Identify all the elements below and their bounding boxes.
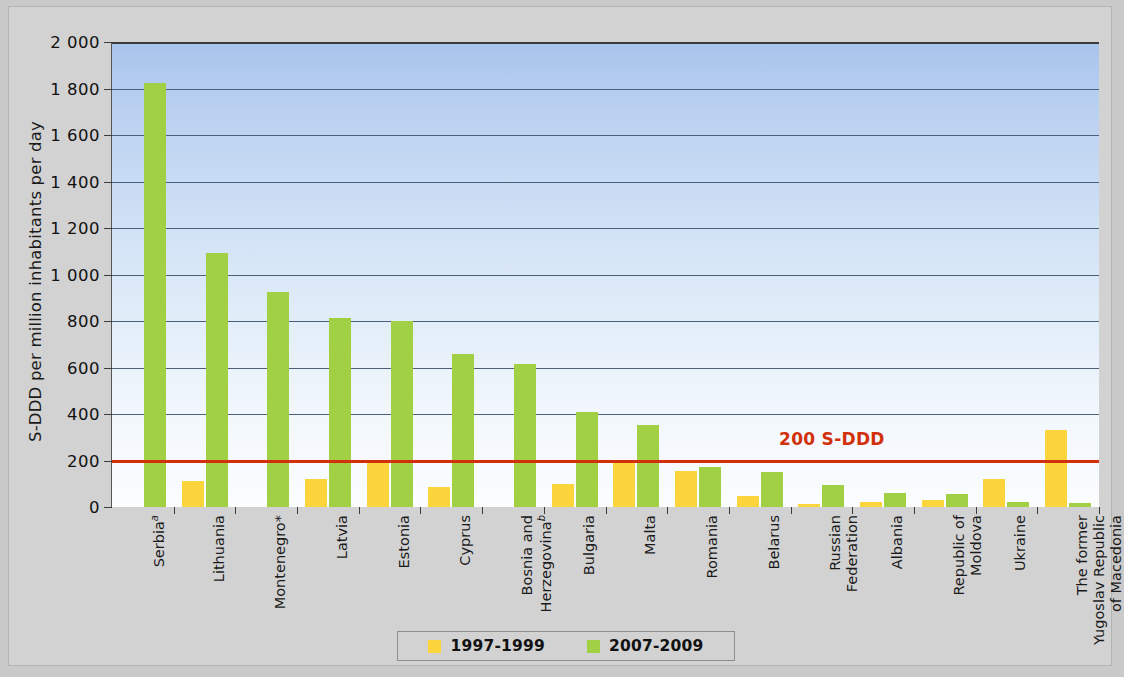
y-axis-tick xyxy=(104,135,112,136)
bar-group xyxy=(367,42,413,507)
bar-group xyxy=(305,42,351,507)
x-axis-category-label: Serbiaa xyxy=(149,515,168,567)
bar-group xyxy=(675,42,721,507)
plot-area: 2 0001 8001 6001 4001 2001 0008006004002… xyxy=(111,42,1099,507)
bar-2007-2009 xyxy=(822,485,844,507)
x-axis-tick xyxy=(667,507,668,514)
bar-2007-2009 xyxy=(699,467,721,507)
x-axis-tick xyxy=(791,507,792,514)
bar-group xyxy=(243,42,289,507)
legend-item-2007-2009: 2007-2009 xyxy=(587,637,704,655)
bar-1997-1999 xyxy=(675,471,697,507)
x-axis-tick xyxy=(976,507,977,514)
x-axis-category-label: Cyprus xyxy=(457,515,474,566)
y-axis-tick-label: 800 xyxy=(67,312,100,331)
y-axis-tick-label: 1 000 xyxy=(50,265,100,284)
x-axis-tick xyxy=(174,507,175,514)
bar-1997-1999 xyxy=(552,484,574,507)
legend-label-2007-2009: 2007-2009 xyxy=(609,637,704,655)
legend-swatch-icon-2007-2009 xyxy=(587,640,600,653)
y-axis-tick-label: 0 xyxy=(89,498,100,517)
x-axis-tick xyxy=(852,507,853,514)
y-axis-tick-label: 1 200 xyxy=(50,219,100,238)
y-axis-tick xyxy=(104,89,112,90)
x-axis-category-label: Latvia xyxy=(334,515,351,559)
x-axis-category-label: The formerYugoslav Republicof Macedonia xyxy=(1074,515,1124,645)
bar-1997-1999 xyxy=(428,487,450,507)
x-axis-category-label: Montenegro* xyxy=(272,515,289,609)
x-axis-category-label: Lithuania xyxy=(211,515,228,582)
x-axis-tick xyxy=(1099,507,1100,514)
y-axis-tick-label: 1 600 xyxy=(50,126,100,145)
y-axis-tick xyxy=(104,275,112,276)
bar-2007-2009 xyxy=(884,493,906,507)
bar-1997-1999 xyxy=(860,502,882,507)
bar-group xyxy=(120,42,166,507)
x-axis-tick xyxy=(914,507,915,514)
bar-2007-2009 xyxy=(391,321,413,507)
bar-2007-2009 xyxy=(206,253,228,507)
bar-group xyxy=(1045,42,1091,507)
bar-1997-1999 xyxy=(182,481,204,507)
bar-2007-2009 xyxy=(514,364,536,507)
chart-legend: 1997-1999 2007-2009 xyxy=(397,631,735,661)
bar-2007-2009 xyxy=(637,425,659,507)
bar-1997-1999 xyxy=(737,496,759,507)
x-axis-tick xyxy=(297,507,298,514)
chart-figure: S-DDD per million inhabitants per day 2 … xyxy=(8,6,1112,666)
bar-2007-2009 xyxy=(1007,502,1029,507)
x-axis-category-label: Bosnia andHerzegovinab xyxy=(519,515,554,612)
x-axis-category-label: Ukraine xyxy=(1012,515,1029,571)
bar-group xyxy=(983,42,1029,507)
threshold-annotation-label: 200 S-DDD xyxy=(779,429,885,449)
bar-group xyxy=(737,42,783,507)
bar-1997-1999 xyxy=(983,479,1005,507)
x-axis-category-label: Albania xyxy=(889,515,906,569)
bar-group xyxy=(552,42,598,507)
x-axis-tick xyxy=(482,507,483,514)
y-axis-tick-label: 600 xyxy=(67,358,100,377)
bar-2007-2009 xyxy=(329,318,351,507)
y-axis-tick xyxy=(104,368,112,369)
bar-1997-1999 xyxy=(1045,430,1067,507)
y-axis-tick-label: 2 000 xyxy=(50,33,100,52)
x-axis-tick xyxy=(1037,507,1038,514)
x-axis-category-label: Romania xyxy=(704,515,721,578)
x-axis-category-label: Estonia xyxy=(396,515,413,568)
bar-2007-2009 xyxy=(1069,503,1091,507)
bar-group xyxy=(922,42,968,507)
bar-2007-2009 xyxy=(144,83,166,507)
y-axis-title: S-DDD per million inhabitants per day xyxy=(26,62,45,502)
x-axis-tick xyxy=(359,507,360,514)
x-axis-tick xyxy=(606,507,607,514)
bar-group xyxy=(490,42,536,507)
bar-2007-2009 xyxy=(267,292,289,507)
y-axis-tick xyxy=(104,228,112,229)
x-axis-tick xyxy=(729,507,730,514)
y-axis-tick xyxy=(104,461,112,462)
y-axis-tick xyxy=(104,182,112,183)
bar-group xyxy=(613,42,659,507)
x-axis-tick xyxy=(544,507,545,514)
bar-1997-1999 xyxy=(305,479,327,507)
x-axis-category-label: Malta xyxy=(642,515,659,555)
y-axis-tick xyxy=(104,321,112,322)
legend-label-1997-1999: 1997-1999 xyxy=(450,637,545,655)
bar-1997-1999 xyxy=(367,463,389,507)
x-axis-category-label: Republic ofMoldova xyxy=(951,515,985,596)
bar-1997-1999 xyxy=(922,500,944,507)
bar-group xyxy=(182,42,228,507)
x-axis-category-label: RussianFederation xyxy=(827,515,861,592)
threshold-line xyxy=(112,460,1099,463)
bar-2007-2009 xyxy=(946,494,968,507)
x-axis-line xyxy=(112,42,1099,44)
y-axis-tick xyxy=(104,414,112,415)
legend-item-1997-1999: 1997-1999 xyxy=(428,637,545,655)
y-axis-tick xyxy=(104,42,112,43)
x-axis-tick xyxy=(420,507,421,514)
bar-group xyxy=(428,42,474,507)
y-axis-tick xyxy=(104,507,112,508)
x-axis-category-label: Bulgaria xyxy=(581,515,598,575)
legend-swatch-icon-1997-1999 xyxy=(428,640,441,653)
bar-1997-1999 xyxy=(613,463,635,507)
